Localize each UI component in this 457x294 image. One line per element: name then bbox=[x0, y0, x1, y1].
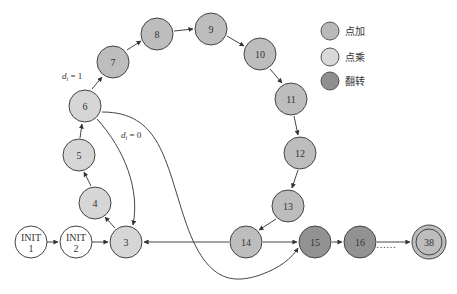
node-6: 6 bbox=[69, 90, 101, 122]
node-label: 14 bbox=[241, 237, 251, 248]
nodes: INIT1INIT234567891011121314151638 bbox=[15, 13, 446, 259]
edge-9-10 bbox=[227, 36, 244, 46]
node-label: 2 bbox=[74, 243, 79, 254]
node-8: 8 bbox=[141, 18, 173, 50]
node-15: 15 bbox=[299, 226, 331, 258]
node-label: 1 bbox=[29, 243, 34, 254]
edge-5-6 bbox=[80, 124, 82, 138]
node-label: 12 bbox=[295, 148, 305, 159]
legend-label-mul: 点乘 bbox=[345, 52, 365, 63]
node-14: 14 bbox=[230, 226, 262, 258]
node-5: 5 bbox=[63, 139, 95, 171]
node-label: 16 bbox=[355, 237, 365, 248]
node-13: 13 bbox=[272, 190, 304, 222]
node-11: 11 bbox=[275, 83, 307, 115]
legend-swatch-mul bbox=[321, 48, 339, 66]
node-label: INIT bbox=[66, 232, 86, 243]
node-label: 38 bbox=[424, 237, 434, 248]
edge-13-14 bbox=[259, 219, 276, 230]
node-label: 6 bbox=[83, 101, 88, 112]
node-label: 4 bbox=[93, 198, 98, 209]
edge-3-4 bbox=[105, 217, 115, 228]
legend: 点加 点乘 翻转 bbox=[321, 22, 365, 90]
edge-12-13 bbox=[292, 170, 298, 188]
annotation-d1: di = 1 bbox=[62, 71, 82, 82]
node-INIT1: INIT1 bbox=[15, 226, 47, 258]
node-label: 15 bbox=[310, 237, 320, 248]
edge-4-5 bbox=[84, 172, 91, 186]
ellipsis: …… bbox=[376, 239, 396, 250]
node-label: 9 bbox=[209, 24, 214, 35]
node-label: 3 bbox=[124, 237, 129, 248]
edge-6-7 bbox=[92, 77, 102, 89]
edge-7-8 bbox=[127, 41, 141, 50]
edge-10-11 bbox=[270, 69, 282, 83]
node-label: 10 bbox=[255, 49, 265, 60]
node-label: 8 bbox=[155, 29, 160, 40]
node-38: 38 bbox=[412, 225, 446, 259]
edge-11-12 bbox=[294, 116, 298, 135]
node-7: 7 bbox=[97, 46, 129, 78]
annotation-d0: di = 0 bbox=[121, 130, 142, 141]
legend-swatch-add bbox=[321, 22, 339, 40]
legend-label-flip: 翻转 bbox=[345, 75, 365, 87]
node-label: 13 bbox=[283, 201, 293, 212]
legend-swatch-flip bbox=[321, 72, 339, 90]
node-10: 10 bbox=[244, 38, 276, 70]
node-label: 7 bbox=[111, 57, 116, 68]
node-label: 5 bbox=[77, 150, 82, 161]
node-16: 16 bbox=[344, 226, 376, 258]
node-label: 11 bbox=[286, 94, 296, 105]
node-label: INIT bbox=[21, 232, 41, 243]
node-4: 4 bbox=[79, 187, 111, 219]
node-9: 9 bbox=[195, 13, 227, 45]
node-INIT2: INIT2 bbox=[60, 226, 92, 258]
node-3: 3 bbox=[110, 226, 142, 258]
legend-label-add: 点加 bbox=[345, 26, 365, 37]
state-transition-diagram: …… di = 1 di = 0 INIT1INIT23456789101112… bbox=[0, 0, 457, 294]
edge-8-9 bbox=[174, 29, 193, 31]
node-12: 12 bbox=[284, 137, 316, 169]
